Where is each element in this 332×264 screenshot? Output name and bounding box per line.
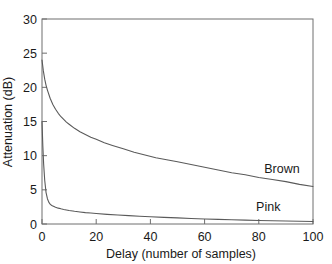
- y-tick-label: 10: [23, 149, 37, 163]
- y-axis-title: Attenuation (dB): [1, 77, 15, 167]
- y-tick-label: 15: [23, 115, 37, 129]
- y-axis-ticks: 051015202530: [23, 13, 47, 232]
- y-tick-label: 0: [30, 218, 37, 232]
- x-tick-label: 60: [198, 230, 212, 244]
- x-axis-ticks: 020406080100: [39, 219, 324, 244]
- series-annotations: BrownPink: [256, 162, 300, 214]
- y-tick-label: 5: [30, 183, 37, 197]
- chart-canvas: 051015202530 020406080100 BrownPink Dela…: [0, 0, 332, 264]
- series-label-pink: Pink: [256, 200, 281, 214]
- data-series-group: [42, 60, 313, 222]
- x-tick-label: 100: [303, 230, 324, 244]
- x-tick-label: 20: [89, 230, 103, 244]
- y-tick-label: 20: [23, 81, 37, 95]
- y-tick-label: 25: [23, 47, 37, 61]
- attenuation-vs-delay-chart: 051015202530 020406080100 BrownPink Dela…: [0, 0, 332, 264]
- series-label-brown: Brown: [264, 162, 299, 176]
- x-axis-title: Delay (number of samples): [106, 247, 256, 261]
- plot-frame: [42, 19, 313, 224]
- x-tick-label: 80: [252, 230, 266, 244]
- y-tick-label: 30: [23, 13, 37, 27]
- x-tick-label: 0: [39, 230, 46, 244]
- x-tick-label: 40: [143, 230, 157, 244]
